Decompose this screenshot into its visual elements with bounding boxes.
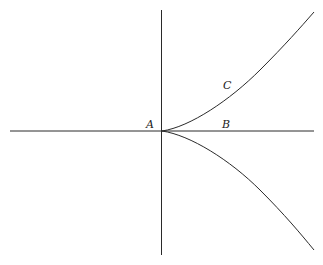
upper-branch-curve bbox=[162, 12, 314, 131]
cusp-diagram: A C B bbox=[0, 0, 323, 265]
label-b: B bbox=[221, 118, 230, 131]
label-a: A bbox=[145, 118, 154, 131]
lower-branch-curve bbox=[162, 131, 314, 250]
label-c: C bbox=[223, 79, 232, 92]
